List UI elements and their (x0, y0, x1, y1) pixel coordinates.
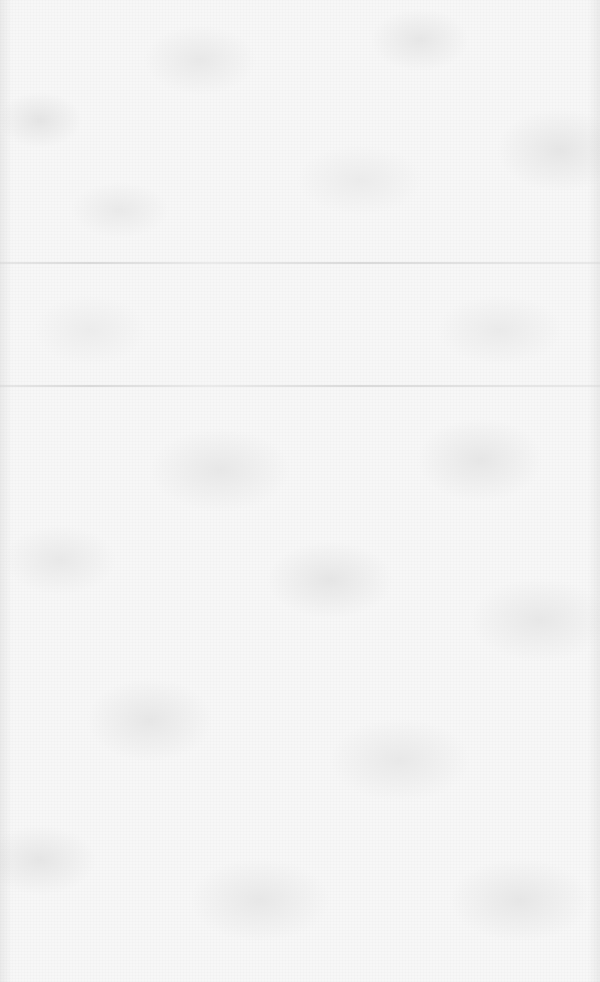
left-edge-shadow (0, 0, 12, 982)
fold-line-lower (0, 385, 600, 387)
right-edge-shadow (588, 0, 600, 982)
fold-line-upper (0, 262, 600, 264)
camo-texture-background (0, 0, 600, 982)
